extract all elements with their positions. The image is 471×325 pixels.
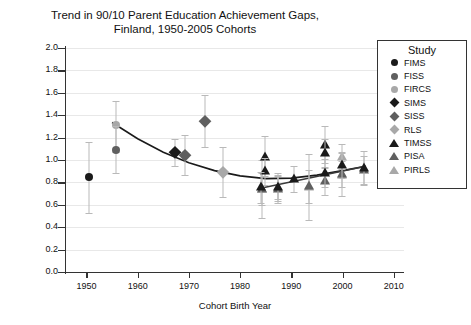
data-point-timss: [289, 174, 299, 183]
error-bar-cap: [219, 197, 226, 198]
x-tick-label: 1950: [66, 281, 106, 291]
error-bar-cap: [322, 187, 329, 188]
error-bar-cap: [274, 203, 281, 204]
error-bar-cap: [339, 196, 346, 197]
diamond-marker-icon: [387, 126, 401, 133]
plot-area: [66, 48, 404, 272]
error-bar-cap: [182, 135, 189, 136]
y-tick: [58, 48, 65, 49]
x-tick-label: 1970: [169, 281, 209, 291]
legend-label: FIRCS: [401, 84, 431, 94]
y-tick-label: 0.2: [34, 245, 58, 254]
legend-rows: FIMSFISSFIRCSSIMSSISSRLSTIMSSPISAPIRLS: [378, 56, 466, 177]
data-point-timss: [260, 166, 270, 175]
y-tick-label: 1.4: [34, 110, 58, 119]
error-bar-cap: [86, 142, 93, 143]
y-tick-label: 0.6: [34, 200, 58, 209]
data-point-timss: [273, 182, 283, 191]
x-tick: [343, 272, 344, 278]
error-bar-cap: [258, 218, 265, 219]
x-axis-line: [65, 272, 404, 273]
error-bar-cap: [113, 173, 120, 174]
error-bar-cap: [291, 192, 298, 193]
error-bar-cap: [361, 185, 368, 186]
error-bar-cap: [262, 136, 269, 137]
y-tick-label: 0.8: [34, 177, 58, 186]
x-tick: [189, 272, 190, 278]
data-point-fims: [85, 173, 93, 181]
legend-label: PISA: [401, 151, 425, 161]
chart-figure: Trend in 90/10 Parent Education Achievem…: [0, 0, 471, 325]
error-bar-cap: [257, 172, 264, 173]
y-tick: [58, 182, 65, 183]
y-tick: [58, 115, 65, 116]
y-tick: [58, 160, 65, 161]
legend-label: SISS: [401, 111, 425, 121]
x-tick-label: 2000: [323, 281, 363, 291]
data-point-timss: [320, 148, 330, 157]
triangle-marker-icon: [387, 152, 401, 160]
y-tick-label: 2.0: [34, 43, 58, 52]
error-bar-cap: [182, 175, 189, 176]
error-bar-cap: [113, 126, 120, 127]
y-tick: [58, 250, 65, 251]
error-bar-cap: [219, 147, 226, 148]
error-bar-cap: [258, 205, 265, 206]
y-tick-label: 1.2: [34, 133, 58, 142]
legend-item-siss[interactable]: SISS: [378, 110, 466, 123]
error-bar-cap: [322, 139, 329, 140]
error-bar-cap: [306, 154, 313, 155]
x-tick-label: 1960: [118, 281, 158, 291]
legend-item-fiss[interactable]: FISS: [378, 69, 466, 82]
error-bar-cap: [274, 173, 281, 174]
data-point-timss: [359, 162, 369, 171]
legend-item-pisa[interactable]: PISA: [378, 150, 466, 163]
triangle-marker-icon: [387, 166, 401, 174]
legend-item-timss[interactable]: TIMSS: [378, 136, 466, 149]
legend-item-rls[interactable]: RLS: [378, 123, 466, 136]
legend-item-pirls[interactable]: PIRLS: [378, 163, 466, 176]
y-tick: [58, 227, 65, 228]
data-point-fiss: [112, 146, 120, 154]
legend-label: RLS: [401, 125, 422, 135]
error-bar-cap: [322, 126, 329, 127]
legend-item-fims[interactable]: FIMS: [378, 56, 466, 69]
data-point-pisa: [304, 181, 314, 190]
error-bar-cap: [291, 166, 298, 167]
legend-label: FIMS: [401, 58, 426, 68]
y-tick: [58, 70, 65, 71]
error-bar-cap: [262, 158, 269, 159]
circle-marker-icon: [387, 73, 401, 80]
error-bar-cap: [113, 101, 120, 102]
data-point-timss: [337, 160, 347, 169]
x-tick: [291, 272, 292, 278]
error-bar-cap: [306, 170, 313, 171]
x-tick: [86, 272, 87, 278]
error-bar-cap: [86, 213, 93, 214]
y-tick-label: 1.8: [34, 65, 58, 74]
y-tick: [58, 93, 65, 94]
y-tick-label: 0.0: [34, 267, 58, 276]
error-bar-cap: [339, 152, 346, 153]
y-tick-label: 1.0: [34, 155, 58, 164]
circle-marker-icon: [387, 59, 401, 66]
x-tick-label: 2010: [374, 281, 414, 291]
legend-label: TIMSS: [401, 138, 432, 148]
legend-item-sims[interactable]: SIMS: [378, 96, 466, 109]
x-tick-label: 1980: [220, 281, 260, 291]
trend-lines: [66, 48, 404, 272]
x-axis-title: Cohort Birth Year: [66, 300, 404, 311]
error-bar-cap: [339, 187, 346, 188]
data-point-timss: [256, 182, 266, 191]
error-bar-cap: [322, 159, 329, 160]
error-bar-cap: [306, 220, 313, 221]
error-bar-cap: [274, 201, 281, 202]
error-bar-cap: [339, 144, 346, 145]
error-bar-cap: [257, 203, 264, 204]
legend-label: PIRLS: [401, 165, 430, 175]
error-bar-cap: [306, 203, 313, 204]
legend-item-fircs[interactable]: FIRCS: [378, 83, 466, 96]
legend: Study FIMSFISSFIRCSSIMSSISSRLSTIMSSPISAP…: [377, 40, 467, 189]
error-bar-cap: [361, 151, 368, 152]
diamond-marker-icon: [387, 99, 401, 106]
